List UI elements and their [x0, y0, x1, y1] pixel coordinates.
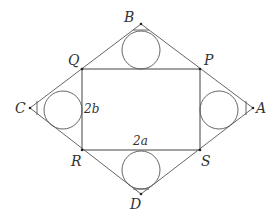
point-r [81, 149, 84, 152]
label-height-2b: 2b [83, 102, 99, 116]
circle-left [44, 91, 82, 129]
circle-right [200, 91, 238, 129]
geometry-diagram: A B C D P Q R S 2a 2b [0, 0, 278, 220]
label-c: C [15, 100, 26, 116]
label-r: R [70, 153, 82, 169]
label-a: A [254, 100, 266, 116]
point-c [29, 107, 32, 110]
circle-top [122, 31, 160, 69]
point-d [140, 193, 143, 196]
point-q [81, 68, 84, 71]
label-width-2a: 2a [132, 134, 148, 148]
point-p [199, 68, 202, 71]
point-a [252, 107, 255, 110]
label-p: P [203, 52, 214, 68]
outer-quadrilateral [30, 24, 253, 194]
circle-bottom [122, 151, 160, 189]
label-d: D [129, 196, 141, 212]
label-b: B [123, 9, 134, 25]
label-q: Q [68, 52, 80, 68]
point-b [140, 23, 143, 26]
point-s [199, 149, 202, 152]
label-s: S [201, 153, 211, 169]
